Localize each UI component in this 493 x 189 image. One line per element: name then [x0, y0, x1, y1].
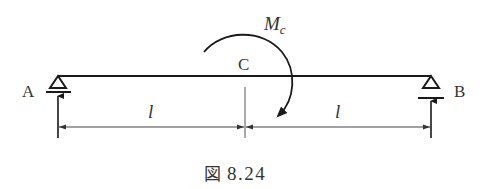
label-b: B [454, 82, 465, 101]
caption-prefix: 図 [204, 164, 221, 184]
moment-label-sub: c [280, 22, 286, 37]
moment-label-main: M [263, 13, 281, 34]
moment-arrow-icon [204, 35, 292, 114]
support-b [418, 76, 444, 138]
span-label-left: l [148, 101, 153, 122]
label-c: C [238, 55, 249, 74]
label-a: A [22, 82, 35, 101]
support-a [46, 76, 71, 138]
moment-label: Mc [263, 13, 286, 37]
support-b-triangle-icon [423, 76, 439, 88]
support-a-triangle-icon [50, 76, 66, 88]
span-label-right: l [335, 101, 340, 122]
figure-caption: 図8.24 [204, 163, 266, 184]
caption-number: 8.24 [227, 163, 266, 184]
beam-diagram: A B C Mc l l 図8.24 [0, 0, 493, 189]
